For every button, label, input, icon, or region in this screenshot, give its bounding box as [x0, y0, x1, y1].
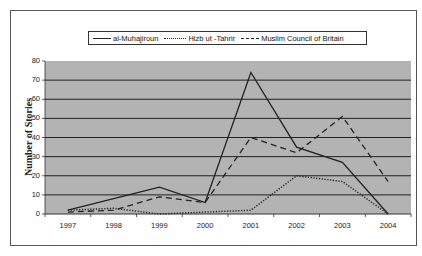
plot-area — [0, 0, 422, 256]
